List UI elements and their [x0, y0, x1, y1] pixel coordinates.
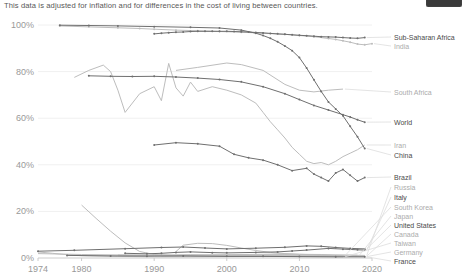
series-marker [110, 255, 112, 257]
series-marker [182, 31, 184, 33]
series-marker [182, 255, 184, 257]
legend-label-south-korea[interactable]: South Korea [394, 204, 433, 211]
x-axis-tick-label: 1974 [28, 264, 48, 274]
series-marker [248, 157, 250, 159]
series-marker [306, 35, 308, 37]
series-marker [175, 31, 177, 33]
y-axis-tick-label: 60% [16, 113, 34, 123]
legend-label-brazil[interactable]: Brazil [394, 174, 412, 181]
series-marker [320, 90, 322, 92]
label-leader-line [345, 89, 391, 92]
x-axis-tick-label: 2010 [289, 264, 309, 274]
line-chart[interactable]: 0%20%40%60%80%100%1974198019902000201020… [0, 0, 463, 278]
series-marker [298, 34, 300, 36]
x-axis-tick-label: 2020 [362, 264, 382, 274]
legend-label-germany[interactable]: Germany [394, 249, 423, 257]
series-marker [356, 37, 358, 39]
series-marker [349, 116, 351, 118]
series-line-brazil[interactable] [154, 143, 365, 181]
series-marker [204, 247, 206, 249]
series-marker [284, 246, 286, 248]
series-marker [277, 41, 279, 43]
series-marker [269, 37, 271, 39]
series-marker [88, 24, 90, 26]
series-marker [342, 40, 344, 42]
series-marker [306, 249, 308, 251]
series-marker [306, 67, 308, 69]
series-marker [262, 34, 264, 36]
series-marker [124, 248, 126, 250]
series-marker [146, 253, 148, 255]
series-marker [233, 31, 235, 33]
legend-label-italy[interactable]: Italy [394, 194, 407, 202]
legend-label-south-africa[interactable]: South Africa [394, 89, 432, 96]
series-marker [204, 30, 206, 32]
series-marker [277, 33, 279, 35]
series-marker [342, 37, 344, 39]
series-line-united-states[interactable] [38, 246, 365, 251]
series-marker [175, 251, 177, 253]
series-marker [66, 254, 68, 256]
legend-label-japan[interactable]: Japan [394, 213, 413, 221]
series-marker [182, 246, 184, 248]
label-leader-line [367, 37, 391, 38]
legend-label-world[interactable]: World [394, 119, 412, 126]
legend-label-canada[interactable]: Canada [394, 231, 419, 238]
label-leader-line [374, 44, 391, 46]
y-axis-tick-label: 20% [16, 206, 34, 216]
series-marker [364, 256, 366, 258]
series-marker [356, 43, 358, 45]
series-marker [364, 121, 366, 123]
series-marker [197, 30, 199, 32]
series-marker [327, 109, 329, 111]
series-marker [197, 143, 199, 145]
series-marker [160, 247, 162, 249]
series-marker [277, 251, 279, 253]
series-marker [364, 37, 366, 39]
series-marker [153, 28, 155, 30]
series-marker [124, 252, 126, 254]
series-marker [269, 32, 271, 34]
legend-label-iran[interactable]: Iran [394, 142, 406, 149]
series-marker [226, 255, 228, 257]
series-marker [371, 43, 373, 45]
series-marker [153, 75, 155, 77]
y-axis-tick-label: 100% [11, 20, 34, 30]
series-marker [226, 248, 228, 250]
chart-window: This data is adjusted for inflation and … [0, 0, 463, 278]
series-marker [175, 29, 177, 31]
series-marker [313, 79, 315, 81]
series-marker [240, 81, 242, 83]
series-marker [160, 32, 162, 34]
series-marker [284, 33, 286, 35]
series-marker [356, 136, 358, 138]
series-marker [189, 251, 191, 253]
legend-label-china[interactable]: China [394, 152, 412, 159]
legend-label-taiwan[interactable]: Taiwan [394, 240, 416, 247]
series-line-india[interactable] [60, 26, 372, 45]
series-line-south-africa[interactable] [176, 63, 343, 92]
series-marker [284, 93, 286, 95]
series-marker [139, 27, 141, 29]
legend-label-india[interactable]: India [394, 43, 409, 50]
y-axis-tick-label: 80% [16, 67, 34, 77]
series-marker [364, 177, 366, 179]
series-marker [335, 256, 337, 258]
series-marker [335, 247, 337, 249]
series-marker [189, 26, 191, 28]
series-marker [226, 30, 228, 32]
legend-label-france[interactable]: France [394, 258, 416, 265]
series-marker [168, 32, 170, 34]
series-line-world[interactable] [89, 76, 365, 122]
series-marker [298, 99, 300, 101]
series-line-russia[interactable] [176, 243, 365, 255]
series-marker [349, 37, 351, 39]
legend-label-sub-saharan-africa[interactable]: Sub-Saharan Africa [394, 34, 455, 41]
series-marker [364, 44, 366, 46]
series-marker [219, 145, 221, 147]
legend-label-russia[interactable]: Russia [394, 184, 416, 191]
series-marker [277, 164, 279, 166]
legend-label-united-states[interactable]: United States [394, 222, 437, 229]
series-marker [291, 250, 293, 252]
series-marker [356, 180, 358, 182]
